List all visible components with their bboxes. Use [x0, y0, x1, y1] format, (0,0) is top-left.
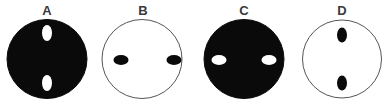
disc-light-horizontal-holes [98, 17, 196, 105]
panel-c: C [196, 0, 294, 105]
panel-b: B [98, 0, 196, 105]
panel-label: A [0, 4, 96, 18]
panel-a: A [0, 0, 98, 105]
hole-bottom [42, 75, 52, 91]
disc-dark-horizontal-holes [196, 17, 294, 105]
hole-left [114, 55, 129, 65]
panel-label: D [293, 4, 391, 18]
disc-light-vertical-holes [294, 17, 392, 105]
panel-label: C [195, 4, 293, 18]
hole-right [167, 55, 182, 65]
hole-top [337, 28, 347, 43]
hole-bottom [337, 76, 347, 91]
hole-right [262, 55, 277, 65]
disc-dark-vertical-holes [0, 17, 98, 105]
hole-top [42, 25, 52, 41]
hole-left [212, 55, 227, 65]
panel-label: B [94, 4, 192, 18]
panel-d: D [294, 0, 392, 105]
